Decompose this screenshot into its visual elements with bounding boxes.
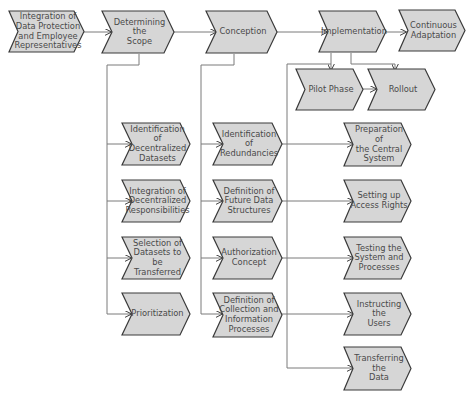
phase-pilot[interactable]: Pilot Phase xyxy=(295,68,364,111)
step-label: Integration of Decentralized Responsibil… xyxy=(118,187,193,216)
conception-step[interactable]: Definition of Collection and Information… xyxy=(212,292,283,338)
process-step-implementation[interactable]: Implementation xyxy=(318,10,387,53)
implementation-step[interactable]: Testing the System and Processes xyxy=(343,236,412,280)
phase-rollout[interactable]: Rollout xyxy=(367,68,436,111)
step-label: Selection of Datasets to be Transferred xyxy=(121,239,191,277)
implementation-step[interactable]: Transferring the Data xyxy=(343,346,412,391)
scope-step[interactable]: Integration of Decentralized Responsibil… xyxy=(121,179,191,223)
step-label: Pilot Phase xyxy=(301,85,357,95)
step-label: Preparation of the Central System xyxy=(343,125,412,163)
implementation-step[interactable]: Setting up Access Rights xyxy=(343,179,412,223)
step-label: Testing the System and Processes xyxy=(347,244,407,273)
step-label: Authorization Concept xyxy=(214,248,281,267)
process-step-conception[interactable]: Conception xyxy=(205,10,278,54)
step-label: Identification of Decentralized Datasets xyxy=(121,125,191,163)
scope-step[interactable]: Identification of Decentralized Datasets xyxy=(121,122,191,166)
step-label: Definition of Collection and Information… xyxy=(212,296,282,334)
scope-step[interactable]: Prioritization xyxy=(121,292,191,336)
process-step-scope[interactable]: Determining the Scope xyxy=(101,10,175,54)
step-label: Setting up Access Rights xyxy=(343,191,411,210)
step-label: Conception xyxy=(213,27,271,37)
step-label: Integration of Data Protection and Emplo… xyxy=(8,12,86,50)
conception-step[interactable]: Definition of Future Data Structures xyxy=(212,179,283,223)
step-label: Identification of Redundancies xyxy=(213,130,282,159)
step-label: Rollout xyxy=(382,85,422,95)
conception-step[interactable]: Authorization Concept xyxy=(212,236,283,280)
implementation-step[interactable]: Instructing the Users xyxy=(343,292,412,336)
step-label: Instructing the Users xyxy=(350,300,406,329)
scope-step[interactable]: Selection of Datasets to be Transferred xyxy=(121,236,191,280)
step-label: Definition of Future Data Structures xyxy=(217,187,279,216)
step-label: Implementation xyxy=(314,27,391,37)
conception-step[interactable]: Identification of Redundancies xyxy=(212,122,283,166)
process-step-adaptation[interactable]: Continuous Adaptation xyxy=(398,9,466,52)
process-step-integration[interactable]: Integration of Data Protection and Emplo… xyxy=(8,10,85,53)
step-label: Prioritization xyxy=(124,309,187,319)
implementation-step[interactable]: Preparation of the Central System xyxy=(343,122,412,167)
step-label: Continuous Adaptation xyxy=(403,21,461,40)
step-label: Determining the Scope xyxy=(107,18,170,47)
step-label: Transferring the Data xyxy=(347,354,407,383)
